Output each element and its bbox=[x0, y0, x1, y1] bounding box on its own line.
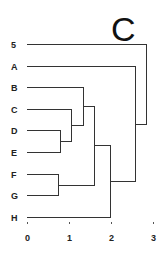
leaf-label: G bbox=[11, 191, 18, 201]
x-axis: 0123 bbox=[25, 222, 156, 243]
leaf-label: E bbox=[11, 148, 17, 158]
leaf-label: B bbox=[11, 83, 18, 93]
leaf-label: D bbox=[11, 126, 18, 136]
branches bbox=[27, 45, 147, 218]
axis-tick-label: 2 bbox=[109, 233, 114, 243]
leaf-labels: 5ABCDEFGH bbox=[11, 40, 18, 223]
axis-tick-label: 1 bbox=[67, 233, 72, 243]
dendrogram: C 5ABCDEFGH 0123 bbox=[0, 0, 166, 255]
leaf-label: H bbox=[11, 213, 18, 223]
leaf-label: 5 bbox=[11, 40, 16, 50]
leaf-label: C bbox=[11, 105, 18, 115]
axis-tick-label: 3 bbox=[151, 233, 156, 243]
panel-label: C bbox=[111, 10, 136, 48]
axis-tick-label: 0 bbox=[25, 233, 30, 243]
leaf-label: F bbox=[11, 170, 17, 180]
leaf-label: A bbox=[11, 62, 18, 72]
